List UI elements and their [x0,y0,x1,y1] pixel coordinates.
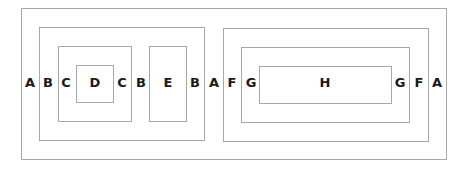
label-e: E [161,76,175,90]
label-c-right: C [115,76,129,90]
label-d: D [88,76,102,90]
label-b-right: B [188,76,202,90]
label-c-left: C [59,76,73,90]
label-a-right: A [430,76,444,90]
label-f-right: F [412,76,426,90]
label-a-middle: A [207,76,221,90]
label-f-left: F [225,76,239,90]
label-g-right: G [393,76,407,90]
label-a-left: A [23,76,37,90]
label-g-left: G [244,76,258,90]
label-b-left: B [41,76,55,90]
label-b-middle: B [134,76,148,90]
label-h: H [318,76,332,90]
